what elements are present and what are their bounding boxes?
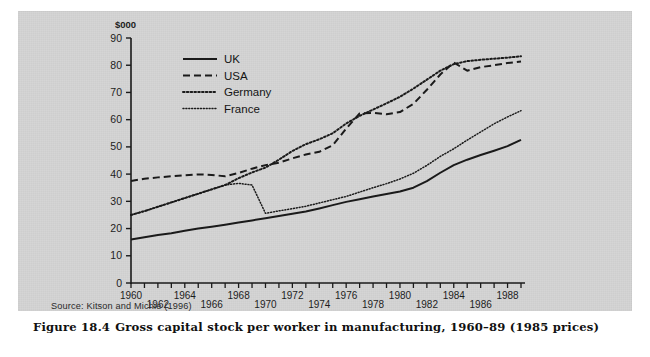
y-tick-label: 70 xyxy=(110,86,122,98)
y-tick-label: 20 xyxy=(110,222,122,234)
y-tick-label: 60 xyxy=(110,113,122,125)
figure-caption-number: Figure 18.4 xyxy=(33,320,110,334)
figure-caption-text: Gross capital stock per worker in manufa… xyxy=(115,320,599,334)
x-tick-label: 1988 xyxy=(496,290,519,301)
x-tick-label: 1968 xyxy=(227,290,250,301)
y-axis-unit-label: $000 xyxy=(115,19,136,30)
y-tick-label: 10 xyxy=(110,249,122,261)
y-tick-label: 30 xyxy=(110,195,122,207)
y-tick-label: 50 xyxy=(110,140,122,152)
chart-panel: 0102030405060708090$00019601962196419661… xyxy=(18,11,632,311)
figure-caption: Figure 18.4Gross capital stock per worke… xyxy=(33,320,632,334)
y-tick-label: 0 xyxy=(116,277,122,289)
series-line-uk xyxy=(131,140,521,240)
y-tick-label: 40 xyxy=(110,168,122,180)
x-tick-label: 1976 xyxy=(335,290,358,301)
legend-label-france: France xyxy=(224,103,260,115)
line-chart: 0102030405060708090$00019601962196419661… xyxy=(18,11,632,311)
x-tick-label: 1974 xyxy=(308,299,331,310)
x-tick-label: 1972 xyxy=(281,290,304,301)
x-tick-label: 1986 xyxy=(470,299,493,310)
x-tick-label: 1978 xyxy=(362,299,385,310)
x-tick-label: 1960 xyxy=(120,290,143,301)
series-line-germany xyxy=(131,56,521,215)
legend-label-uk: UK xyxy=(224,53,240,65)
y-tick-label: 90 xyxy=(110,32,122,44)
series-line-france xyxy=(131,111,521,215)
series-line-usa xyxy=(131,61,521,181)
x-tick-label: 1966 xyxy=(201,299,224,310)
y-tick-label: 80 xyxy=(110,59,122,71)
figure-page: 0102030405060708090$00019601962196419661… xyxy=(0,0,650,357)
source-note: Source: Kitson and Michie (1996) xyxy=(51,301,192,311)
legend-label-usa: USA xyxy=(224,70,248,82)
x-tick-label: 1970 xyxy=(254,299,277,310)
x-tick-label: 1984 xyxy=(443,290,466,301)
legend-label-germany: Germany xyxy=(224,86,272,98)
x-tick-label: 1980 xyxy=(389,290,412,301)
x-tick-label: 1964 xyxy=(174,290,197,301)
x-tick-label: 1982 xyxy=(416,299,439,310)
